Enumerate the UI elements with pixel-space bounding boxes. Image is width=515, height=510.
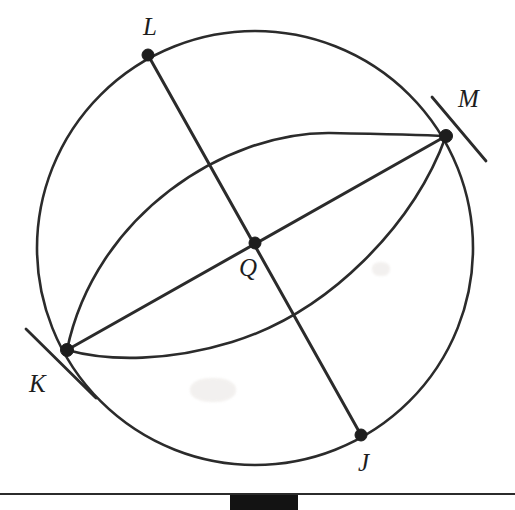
vertex-dot-Q bbox=[249, 237, 261, 249]
point-label-Q: Q bbox=[239, 255, 257, 280]
paper-smudge bbox=[190, 378, 236, 402]
geometry-canvas bbox=[0, 0, 515, 510]
vertex-dot-L bbox=[142, 49, 154, 61]
point-label-M: M bbox=[458, 86, 479, 111]
point-label-K: K bbox=[29, 371, 46, 396]
geometry-figure: L M Q K J bbox=[0, 0, 515, 510]
vertex-dot-K bbox=[61, 344, 74, 357]
point-label-J: J bbox=[358, 450, 369, 475]
paper-smudge bbox=[372, 262, 390, 276]
vertex-dot-M bbox=[440, 130, 453, 143]
bottom-black-block bbox=[230, 495, 298, 510]
vertex-dot-J bbox=[355, 429, 367, 441]
point-label-L: L bbox=[143, 14, 157, 39]
